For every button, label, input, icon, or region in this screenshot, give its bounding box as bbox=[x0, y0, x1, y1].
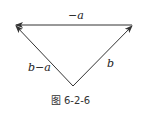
label-minus-a: −a bbox=[68, 10, 84, 21]
label-b: b bbox=[107, 58, 114, 69]
vector-b bbox=[73, 26, 132, 86]
figure-caption: 图 6-2-6 bbox=[0, 96, 141, 106]
vector-b-minus-a bbox=[16, 26, 73, 86]
label-b-minus-a: b−a bbox=[28, 62, 51, 73]
